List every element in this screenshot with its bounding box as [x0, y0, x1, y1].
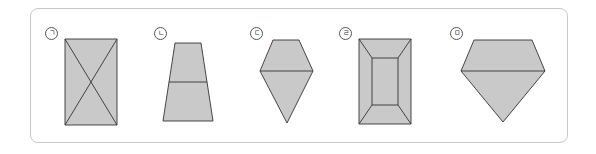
- shape-frustum: [359, 39, 411, 124]
- shape-gem: [461, 40, 545, 122]
- shape-trapezoid: [163, 43, 213, 121]
- shape-kite: [260, 40, 313, 123]
- shapes-canvas: [0, 0, 596, 154]
- shape-rectangle-diagonals: [65, 39, 117, 125]
